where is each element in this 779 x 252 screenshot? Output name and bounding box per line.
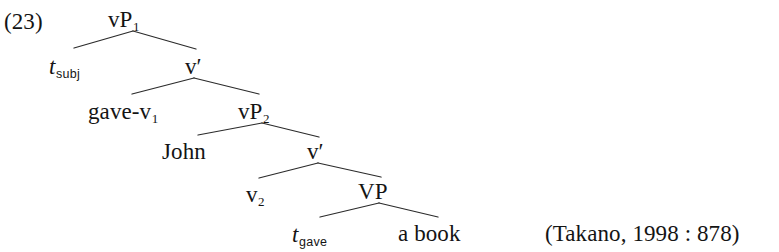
tree-node-trace-gave-base: t [292, 222, 299, 247]
tree-node-v2-base: v [246, 182, 258, 207]
tree-node-vp1-base: vP [108, 7, 133, 32]
source-citation: (Takano, 1998 : 878) [545, 222, 740, 245]
tree-edge-vbar1-gave-v1 [132, 78, 194, 94]
tree-node-vbar-1-base: v [185, 54, 197, 79]
figure-canvas: (23) vP1 tsubj v′ gave-v1 vP2 John v′ v2… [0, 0, 779, 252]
tree-node-trace-subj-subscript: subj [56, 67, 81, 81]
example-number: (23) [4, 10, 43, 33]
tree-node-vp-base: VP [358, 179, 388, 204]
tree-node-vbar-1-prime: ′ [197, 54, 202, 79]
tree-edge-vp2-vbar2 [262, 123, 319, 137]
tree-edge-vbar2-v2 [259, 163, 318, 178]
tree-node-vbar-2: v′ [307, 140, 324, 163]
tree-node-john: John [162, 140, 206, 163]
tree-node-trace-gave-subscript: gave [299, 235, 328, 249]
tree-node-gave-v1-base: gave-v [88, 99, 151, 124]
tree-edge-vp1-tsubj [74, 31, 133, 48]
tree-node-vp2: vP2 [238, 100, 270, 125]
tree-node-v2: v2 [246, 183, 265, 208]
tree-node-gave-v1: gave-v1 [88, 100, 159, 125]
tree-edge-vp1-vbar1 [133, 31, 196, 49]
tree-node-vp: VP [358, 180, 388, 203]
tree-node-vp1: vP1 [108, 8, 140, 33]
tree-node-vp2-subscript: 2 [263, 111, 270, 126]
tree-node-gave-v1-subscript: 1 [151, 111, 158, 126]
tree-node-a-book: a book [398, 222, 461, 245]
tree-node-vbar-2-prime: ′ [319, 139, 324, 164]
tree-node-vp1-subscript: 1 [133, 19, 140, 34]
tree-node-v2-subscript: 2 [258, 194, 265, 209]
tree-edge-vbar2-vp [318, 163, 381, 177]
tree-edge-vbar1-vp2 [194, 78, 259, 94]
tree-node-trace-subj: tsubj [49, 55, 80, 80]
tree-edge-vp-tgave [320, 203, 379, 217]
tree-branches [0, 0, 779, 252]
tree-edge-vp-abook [379, 203, 438, 217]
tree-node-trace-gave: tgave [292, 223, 327, 248]
tree-node-a-book-base: a book [398, 221, 461, 246]
tree-node-trace-subj-base: t [49, 54, 56, 79]
tree-node-vp2-base: vP [238, 99, 263, 124]
tree-node-vbar-2-base: v [307, 139, 319, 164]
tree-node-vbar-1: v′ [185, 55, 202, 78]
tree-node-john-base: John [162, 139, 206, 164]
